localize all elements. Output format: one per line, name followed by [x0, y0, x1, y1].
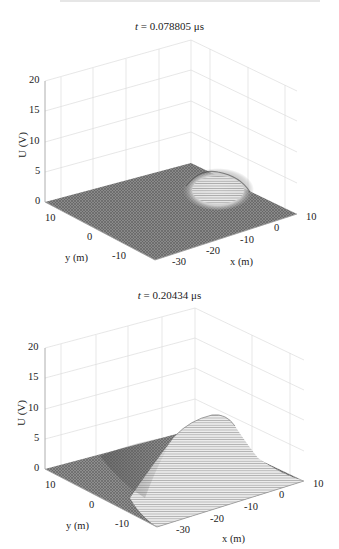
z-tick: 5 [35, 165, 40, 176]
x-tick: 10 [313, 478, 324, 489]
x-tick: 0 [279, 489, 284, 500]
chart-panel-1: t = 0.078805 μs [0, 0, 339, 270]
z-tick: 10 [28, 402, 39, 413]
y-tick: -10 [115, 518, 129, 529]
x-tick: -30 [172, 256, 186, 267]
z-axis-label: U (V) [15, 400, 27, 426]
z-tick: 20 [28, 341, 39, 352]
x-tick: -30 [176, 524, 190, 535]
surface-hump [130, 415, 304, 527]
x-tick: -20 [206, 245, 220, 256]
x-axis-label: x (m) [230, 256, 253, 267]
surface-plot [0, 0, 339, 270]
x-tick: 10 [306, 211, 317, 222]
y-axis-label: y (m) [65, 252, 88, 263]
z-tick: 15 [28, 371, 39, 382]
z-tick: 20 [29, 74, 40, 85]
x-tick: -20 [210, 513, 224, 524]
y-tick: 0 [89, 499, 94, 510]
y-axis-label: y (m) [66, 520, 89, 531]
chart-panel-2: t = 0.20434 μs [0, 268, 339, 538]
z-tick: 0 [34, 462, 39, 473]
x-tick: 0 [274, 222, 279, 233]
z-axis-label: U (V) [16, 132, 28, 158]
z-tick: 5 [34, 432, 39, 443]
surface-floor [45, 163, 297, 260]
surface-plot [0, 268, 339, 549]
y-tick: 0 [87, 231, 92, 242]
x-tick: -10 [244, 501, 258, 512]
y-tick: -10 [112, 250, 126, 261]
z-tick: 15 [29, 104, 40, 115]
z-tick: 10 [29, 135, 40, 146]
y-tick: 10 [45, 479, 56, 490]
y-tick: 10 [45, 212, 56, 223]
z-tick: 0 [35, 195, 40, 206]
x-tick: -10 [240, 234, 254, 245]
x-axis-label: x (m) [222, 533, 245, 544]
